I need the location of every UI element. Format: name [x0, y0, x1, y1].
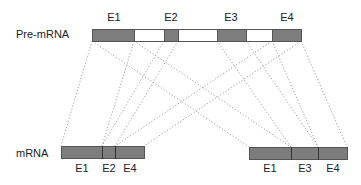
splice-connector-lines: [61, 41, 347, 147]
splice-connector-line: [144, 41, 301, 146]
mrna-exon-label: E3: [298, 162, 311, 174]
splice-connector-line: [102, 41, 134, 146]
mrna-exon-label: E2: [102, 162, 115, 174]
mrna-exon-label: E4: [123, 162, 136, 174]
pre-mrna-intron: [247, 30, 273, 42]
pre-mrna-exon-e3: [218, 30, 247, 42]
splice-connector-line: [115, 41, 272, 146]
pre-mrna-intron: [179, 30, 218, 42]
mrna-bar: [250, 148, 348, 160]
splice-connector-line: [217, 41, 291, 147]
splicing-diagram: E1E2E3E4 E1E2E4E1E3E4 Pre-mRNA mRNA: [0, 0, 361, 185]
pre-mrna-exon-label: E4: [280, 11, 293, 23]
splice-connector-line: [272, 41, 318, 147]
splice-connector-line: [102, 41, 164, 146]
splice-connector-line: [115, 41, 178, 146]
mrna-exon-label: E1: [75, 162, 88, 174]
splice-connector-line: [301, 41, 347, 147]
pre-mrna-label: Pre-mRNA: [16, 28, 70, 40]
splice-connector-line: [246, 41, 318, 147]
pre-mrna-exon-label: E3: [224, 11, 237, 23]
mrna-exon-label: E1: [263, 162, 276, 174]
splice-connector-line: [92, 41, 249, 147]
pre-mrna-exon-label: E1: [107, 11, 120, 23]
pre-mrna-intron: [135, 30, 165, 42]
pre-mrna-exon-e4: [273, 30, 302, 42]
pre-mrna-exon-e2: [165, 30, 179, 42]
splice-connector-line: [61, 41, 92, 146]
mrna-exon-label: E4: [326, 162, 339, 174]
splice-connector-line: [134, 41, 291, 147]
isoform-E1-E3-E4: E1E3E4: [250, 147, 348, 174]
pre-mrna-track: E1E2E3E4: [93, 11, 302, 42]
pre-mrna-exon-label: E2: [164, 11, 177, 23]
mrna-tracks: E1E2E4E1E3E4: [62, 146, 348, 174]
isoform-E1-E2-E4: E1E2E4: [62, 146, 145, 174]
mrna-label: mRNA: [16, 147, 49, 159]
pre-mrna-exon-e1: [93, 30, 135, 42]
